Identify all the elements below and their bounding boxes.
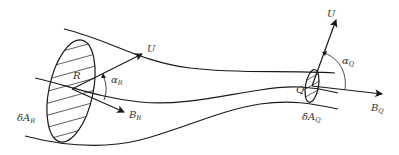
- tube-center-line: [35, 78, 338, 103]
- label-dA-Q: δAQ: [302, 111, 321, 124]
- label-dA-R: δAR: [17, 112, 35, 125]
- flux-tube-diagram: U R αR BR δAR U αQ Q BQ δAQ: [0, 0, 399, 155]
- label-U-R: U: [147, 43, 156, 54]
- label-alpha-Q: αQ: [342, 55, 355, 68]
- label-B-R: BR: [128, 109, 141, 122]
- tube-upper-boundary: [64, 29, 335, 73]
- label-R: R: [72, 70, 81, 81]
- label-Q: Q: [296, 84, 304, 95]
- label-B-Q: BQ: [370, 102, 384, 115]
- vector-U-R: [72, 54, 142, 89]
- vector-B-R: [72, 89, 124, 112]
- label-alpha-R: αR: [111, 74, 123, 87]
- label-U-Q: U: [327, 8, 336, 19]
- cross-section-R-hatching: [30, 38, 110, 155]
- cross-section-R: [39, 36, 104, 147]
